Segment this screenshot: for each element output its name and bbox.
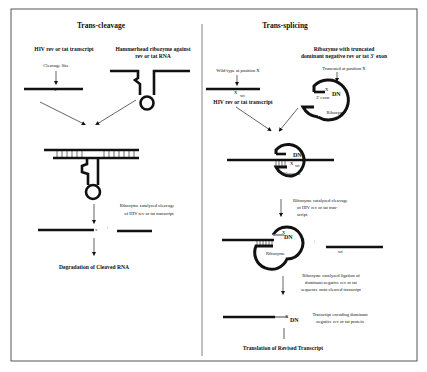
right-plus-sign: +: [313, 239, 316, 244]
left-step1-line1: Ribozyme catalyzed cleavage: [120, 203, 175, 208]
ribozyme-label-cleaved: Ribozyme: [266, 251, 285, 256]
figure-frame: [11, 9, 417, 361]
dn-label-product: DN: [290, 317, 299, 323]
hammerhead-label-line2: rev or tat RNA: [135, 53, 171, 59]
product-label-line1: Transcript encoding dominant: [312, 312, 368, 317]
translation-label: Translation of Revised Transcript: [243, 345, 323, 351]
right-step1-line1: Ribozyme catalyzed cleavage: [293, 198, 348, 203]
ribozyme-header-line2: dominant negative rev or tat 3' exon: [301, 53, 388, 59]
cleavage-site-label: Cleavage Site: [43, 63, 68, 68]
right-step2-line1: Ribozyme catalyzed ligation of: [302, 273, 360, 278]
wt-x-mark: X: [234, 90, 238, 95]
right-step2-line3: sequence onto cleaved transcript: [301, 287, 362, 292]
dn-label-cleaved: DN: [284, 234, 293, 240]
trans-splicing-title: Trans-splicing: [262, 21, 308, 30]
trans-cleavage-panel: Trans-cleavage HIV rev or tat transcript…: [24, 21, 191, 270]
exon-label: 3' exon: [316, 95, 330, 100]
degradation-label: Degradation of Cleaved RNA: [59, 264, 129, 270]
hammerhead-ribozyme: [110, 71, 190, 110]
right-step2-line2: dominant negative rev or tat: [305, 280, 358, 285]
hammerhead-label-line1: Hammerhead ribozyme against: [115, 46, 190, 52]
hiv-transcript-label: HIV rev or tat transcript: [34, 46, 93, 52]
product-label-line2: negative rev or tat protein: [316, 319, 364, 324]
ribozyme-header-line1: Ribozyme with truncated: [314, 46, 375, 52]
complex-wt-label: wt: [295, 163, 300, 168]
ribozyme-label-complex: Ribozyme: [282, 171, 301, 176]
wt-label: wt: [240, 93, 245, 98]
product-x-mark: X: [285, 314, 289, 319]
ribozyme-transcript-complex: [44, 150, 139, 199]
right-step1-line3: script: [297, 212, 308, 217]
converge-arrow-right: [97, 100, 136, 124]
exon-x-mark: X: [325, 87, 329, 92]
left-plus-sign: +: [106, 225, 109, 230]
complex-x-mark: X: [290, 161, 294, 166]
right-step1-line2: of HIV rev or tat tran-: [297, 205, 338, 210]
ribozyme-label-top: Ribozyme: [327, 110, 346, 115]
dn-label-top: DN: [332, 91, 341, 97]
truncated-label: Truncated at position X: [322, 66, 366, 71]
converge-arrow-left: [40, 102, 84, 124]
wildtype-label: Wild-type at position X: [216, 68, 260, 73]
cleaved-wt-label: wt: [338, 249, 343, 254]
dn-label-complex: DN: [293, 152, 302, 158]
figure-canvas: Trans-cleavage HIV rev or tat transcript…: [0, 0, 427, 372]
trans-splicing-panel: Trans-splicing Wild-type at position X X…: [206, 21, 388, 351]
splicing-complex: [227, 144, 334, 176]
right-converge-arrow-right: [280, 108, 298, 130]
left-step1-line2: of HIV rev or tat transcript: [124, 211, 174, 216]
trans-cleavage-title: Trans-cleavage: [77, 21, 126, 30]
cleaved-site-mark: x: [95, 227, 98, 232]
right-converge-arrow-left: [236, 107, 270, 130]
hiv-transcript-right-label: HIV rev or tat transcript: [213, 99, 272, 105]
